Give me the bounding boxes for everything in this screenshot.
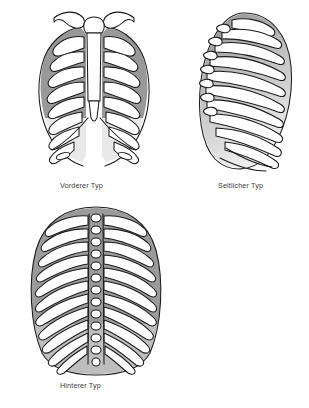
posterior-thorax-drawing (16, 204, 176, 376)
figure-anterior-thorax (18, 6, 170, 178)
clavicle-left (54, 12, 84, 28)
caption-lateral: Seitlicher Typ (218, 181, 263, 190)
sternum-body (87, 33, 101, 101)
figure-lateral-thorax (196, 8, 300, 176)
caption-anterior: Vorderer Typ (60, 181, 103, 190)
figure-posterior-thorax (16, 204, 176, 376)
xiphoid-process (89, 101, 99, 121)
caption-posterior: Hinterer Typ (60, 381, 101, 390)
manubrium (84, 17, 105, 33)
lateral-thorax-drawing (196, 8, 300, 176)
anterior-thorax-drawing (18, 6, 170, 178)
clavicle-right (104, 12, 134, 28)
